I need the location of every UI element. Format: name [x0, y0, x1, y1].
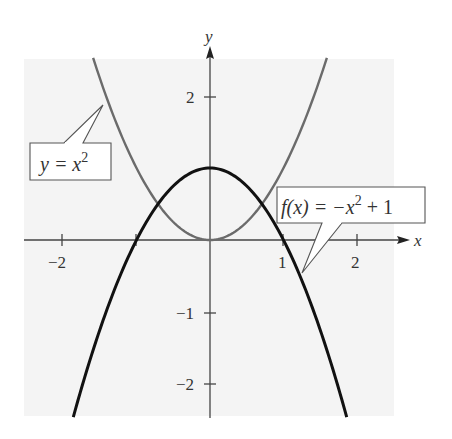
graph-figure: x y −2 1 2 2 −1 −2 y = x2 f(x) = −x2 + 1 — [0, 0, 452, 439]
plot-background — [24, 59, 394, 416]
x-tick-label-2: 2 — [351, 253, 360, 272]
x-axis-label: x — [413, 231, 422, 250]
callout-f-exponent: 2 — [355, 193, 362, 208]
callout-f-text: f(x) = −x — [281, 196, 355, 219]
x-tick-label--2: −2 — [48, 253, 66, 272]
svg-text:f(x) = −x2 + 1: f(x) = −x2 + 1 — [281, 193, 393, 219]
callout-square-exponent: 2 — [81, 150, 88, 165]
y-tick-label--2: −2 — [176, 375, 194, 394]
y-tick-label--1: −1 — [176, 304, 194, 323]
svg-text:y = x2: y = x2 — [38, 150, 88, 176]
y-tick-label-2: 2 — [186, 88, 195, 107]
callout-square-text: y = x — [38, 153, 81, 176]
callout-f-text-tail: + 1 — [362, 196, 393, 218]
y-axis-label: y — [203, 27, 213, 46]
x-tick-label-1: 1 — [278, 253, 287, 272]
